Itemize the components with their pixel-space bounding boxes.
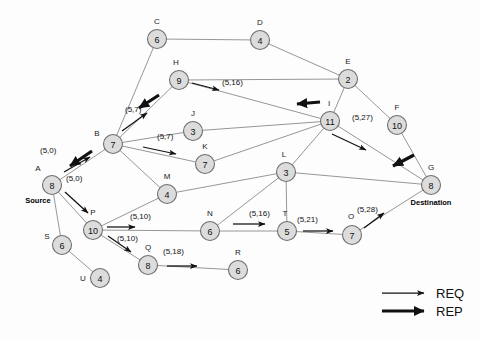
edge-E-I bbox=[334, 88, 345, 113]
packet-label-req-h-i: (5,16) bbox=[222, 78, 243, 87]
node-D[interactable]: 4D bbox=[251, 18, 270, 50]
node-label-T: T bbox=[283, 209, 288, 218]
node-T[interactable]: 5T bbox=[278, 209, 297, 241]
packet-label-req-a-b: (5,0) bbox=[40, 146, 57, 155]
node-value-K: 7 bbox=[202, 160, 207, 170]
node-M[interactable]: 4M bbox=[158, 172, 177, 204]
node-role-G: Destination bbox=[411, 198, 452, 207]
node-value-S: 6 bbox=[59, 241, 64, 251]
node-label-M: M bbox=[164, 172, 171, 181]
packet-arrow-rep-g-i bbox=[393, 155, 414, 166]
node-value-J: 3 bbox=[190, 127, 195, 137]
node-K[interactable]: 7K bbox=[196, 142, 215, 174]
edge-S-U bbox=[69, 251, 93, 272]
node-L[interactable]: 3L bbox=[277, 150, 296, 182]
node-label-U: U bbox=[80, 274, 86, 283]
node-Q[interactable]: 8Q bbox=[139, 243, 158, 275]
legend-req-label: REQ bbox=[436, 286, 464, 301]
packet-arrow-req-b-k bbox=[143, 147, 176, 154]
node-P[interactable]: 10P bbox=[84, 208, 103, 240]
edge-E-H bbox=[189, 79, 339, 80]
node-value-I: 11 bbox=[325, 117, 334, 127]
edge-B-K bbox=[122, 146, 195, 162]
edge-P-N bbox=[103, 230, 201, 231]
node-value-F: 10 bbox=[392, 121, 402, 131]
node-O[interactable]: 7O bbox=[343, 212, 362, 245]
node-value-T: 5 bbox=[284, 227, 289, 237]
node-value-M: 4 bbox=[164, 190, 169, 200]
edge-I-G bbox=[338, 126, 423, 180]
node-E[interactable]: 2E bbox=[339, 57, 358, 89]
node-value-D: 4 bbox=[257, 36, 262, 46]
node-value-R: 6 bbox=[235, 266, 240, 276]
packet-arrow-req-a-b bbox=[64, 157, 90, 172]
node-C[interactable]: 6C bbox=[148, 17, 167, 49]
node-I[interactable]: 11I bbox=[321, 99, 340, 131]
edge-T-O bbox=[296, 232, 342, 235]
packet-label-req-a-p: (5,0) bbox=[66, 174, 83, 183]
node-R[interactable]: 6R bbox=[229, 248, 248, 280]
node-label-C: C bbox=[154, 17, 160, 26]
edge-L-N bbox=[218, 178, 279, 225]
legend: REQREP bbox=[382, 286, 464, 319]
node-value-H: 9 bbox=[176, 76, 181, 86]
node-value-U: 4 bbox=[97, 274, 102, 284]
node-label-N: N bbox=[207, 209, 213, 218]
node-H[interactable]: 9H bbox=[170, 58, 189, 90]
packet-label-req-o-g: (5,28) bbox=[357, 205, 378, 214]
node-B[interactable]: 7B bbox=[94, 129, 122, 154]
node-label-B: B bbox=[94, 129, 99, 138]
legend-rep-label: REP bbox=[436, 304, 463, 319]
node-label-S: S bbox=[44, 232, 49, 241]
node-label-K: K bbox=[202, 142, 208, 151]
node-label-O: O bbox=[348, 212, 354, 221]
edge-K-I bbox=[214, 124, 321, 161]
edge-L-M bbox=[176, 174, 276, 193]
node-role-A: Source bbox=[25, 196, 50, 205]
node-label-E: E bbox=[345, 57, 350, 66]
edge-H-I bbox=[188, 82, 321, 118]
packet-arrow-rep-h-b bbox=[139, 95, 159, 108]
packet-arrow-rep-b-a bbox=[70, 151, 92, 166]
node-A[interactable]: 8ASource bbox=[25, 164, 61, 205]
diagram-canvas: (5,0)(5,0)(5,7)(5,7)(5,16)(5,27)(5,16)(5… bbox=[0, 0, 480, 339]
node-value-O: 7 bbox=[349, 231, 354, 241]
node-value-G: 8 bbox=[428, 181, 433, 191]
node-F[interactable]: 10F bbox=[388, 103, 407, 135]
edge-L-G bbox=[295, 173, 421, 184]
node-label-A: A bbox=[35, 164, 41, 173]
node-label-I: I bbox=[328, 99, 330, 108]
node-label-H: H bbox=[173, 58, 179, 67]
packet-arrow-req-i-g bbox=[332, 134, 366, 150]
node-label-L: L bbox=[282, 150, 287, 159]
node-label-F: F bbox=[395, 103, 400, 112]
node-value-A: 8 bbox=[49, 181, 54, 191]
node-value-Q: 8 bbox=[145, 261, 150, 271]
node-label-P: P bbox=[90, 208, 95, 217]
node-U[interactable]: 4U bbox=[80, 269, 109, 288]
edge-B-J bbox=[122, 133, 183, 143]
edge-D-E bbox=[269, 44, 340, 75]
packet-label-req-b-k: (5,7) bbox=[157, 132, 174, 141]
edge-B-M bbox=[120, 150, 160, 187]
packet-label-req-p-n: (5,10) bbox=[130, 212, 151, 221]
node-G[interactable]: 8GDestination bbox=[411, 163, 452, 207]
node-label-J: J bbox=[191, 109, 195, 118]
edge-A-S bbox=[54, 194, 61, 235]
network-graph: (5,0)(5,0)(5,7)(5,7)(5,16)(5,27)(5,16)(5… bbox=[0, 0, 480, 339]
node-J[interactable]: 3J bbox=[184, 109, 203, 141]
node-label-G: G bbox=[428, 163, 434, 172]
packet-arrow-rep-i-h bbox=[297, 102, 320, 104]
packet-arrow-req-h-i bbox=[192, 83, 219, 90]
edge-I-L bbox=[292, 128, 324, 165]
node-value-P: 10 bbox=[88, 226, 98, 236]
packet-label-req-i-g: (5,27) bbox=[352, 113, 373, 122]
edge-C-D bbox=[167, 39, 251, 40]
node-S[interactable]: 6S bbox=[44, 232, 71, 255]
packet-label-req-n-t: (5,16) bbox=[249, 209, 270, 218]
node-value-N: 6 bbox=[207, 227, 212, 237]
node-N[interactable]: 6N bbox=[201, 209, 220, 241]
packet-arrow-req-o-g bbox=[364, 213, 384, 228]
packet-label-req-t-o: (5,21) bbox=[297, 215, 318, 224]
packet-label-req-q-r: (5,18) bbox=[163, 247, 184, 256]
